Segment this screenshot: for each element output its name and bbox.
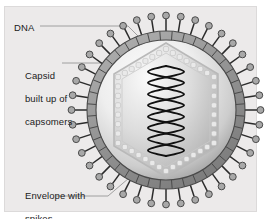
- spike-knob: [78, 64, 85, 71]
- spike-knob: [177, 200, 184, 207]
- spike-knob: [239, 51, 246, 58]
- virus-diagram-figure: DNA Capsid built up of capsomers Envelop…: [0, 0, 265, 219]
- spike-knob: [239, 162, 246, 169]
- capsomer: [143, 156, 148, 161]
- spike-knob: [247, 64, 254, 71]
- spike-stem: [152, 20, 154, 33]
- spike-stem: [236, 69, 248, 75]
- spike-knob: [133, 196, 140, 203]
- capsomer: [150, 54, 155, 59]
- spike-stem: [79, 82, 91, 86]
- spike-knob: [229, 173, 236, 180]
- capsomer: [170, 50, 175, 55]
- capsomer: [163, 168, 168, 173]
- spike-stem: [243, 96, 256, 98]
- spike-knob: [133, 17, 140, 24]
- capsomer: [211, 103, 216, 108]
- label-dna: DNA: [14, 22, 34, 34]
- capsomer: [184, 58, 189, 63]
- spike-stem: [243, 122, 256, 124]
- spike-knob: [218, 183, 225, 190]
- spike-knob: [206, 191, 213, 198]
- capsomer: [122, 70, 127, 75]
- capsomer: [184, 156, 189, 161]
- spike-stem: [152, 187, 154, 200]
- capsomer: [143, 58, 148, 63]
- spike-knob: [163, 12, 170, 19]
- capsomer: [198, 148, 203, 153]
- capsomer: [211, 84, 216, 89]
- capsomer: [115, 112, 120, 117]
- spike-stem: [229, 57, 240, 65]
- capsomer: [163, 46, 168, 51]
- spike-knob: [177, 13, 184, 20]
- spike-stem: [102, 46, 111, 55]
- spike-stem: [190, 23, 194, 35]
- label-capsid: Capsid built up of capsomers: [14, 58, 72, 139]
- spike-stem: [201, 180, 207, 192]
- capsomer: [115, 84, 120, 89]
- spike-stem: [85, 69, 97, 75]
- label-envelope-line1: Envelope with: [25, 190, 85, 201]
- capsomer: [115, 140, 120, 145]
- envelope-segment-divider: [160, 31, 161, 40]
- spike-knob: [96, 40, 103, 47]
- spike-stem: [85, 145, 97, 151]
- spike-stem: [138, 23, 142, 35]
- capsomer: [129, 148, 134, 153]
- spike-knob: [107, 30, 114, 37]
- envelope-segment-divider: [171, 31, 172, 40]
- capsomer: [191, 62, 196, 67]
- envelope-segment-divider: [236, 115, 245, 116]
- spike-knob: [192, 17, 199, 24]
- capsomer: [205, 144, 210, 149]
- spike-knob: [107, 183, 114, 190]
- spike-stem: [125, 29, 131, 41]
- spike-knob: [206, 22, 213, 29]
- capsomer: [150, 160, 155, 165]
- capsomer: [205, 70, 210, 75]
- spike-stem: [240, 82, 252, 86]
- spike-knob: [96, 173, 103, 180]
- envelope-segment-divider: [236, 104, 245, 105]
- label-capsid-line1: Capsid: [25, 70, 55, 81]
- capsomer: [177, 160, 182, 165]
- capsomer: [136, 152, 141, 157]
- capsomer: [115, 122, 120, 127]
- spike-knob: [86, 162, 93, 169]
- capsomer: [122, 144, 127, 149]
- capsomer: [115, 131, 120, 136]
- spike-stem: [212, 173, 220, 184]
- spike-stem: [138, 184, 142, 196]
- envelope-segment-divider: [87, 115, 96, 116]
- spike-stem: [79, 134, 91, 138]
- spike-stem: [221, 165, 230, 174]
- capsomer: [115, 74, 120, 79]
- capsomer: [115, 103, 120, 108]
- capsomer: [211, 112, 216, 117]
- label-envelope-line2: spikes: [25, 213, 53, 220]
- capsomer: [198, 66, 203, 71]
- spike-knob: [218, 30, 225, 37]
- spike-stem: [102, 165, 111, 174]
- spike-knob: [120, 191, 127, 198]
- spike-knob: [256, 121, 263, 128]
- spike-knob: [192, 196, 199, 203]
- capsomer: [170, 164, 175, 169]
- spike-knob: [229, 40, 236, 47]
- spike-knob: [163, 201, 170, 208]
- envelope-segment-divider: [160, 180, 161, 189]
- capsomer: [211, 122, 216, 127]
- spike-stem: [178, 187, 180, 200]
- label-capsid-line3: capsomers: [25, 116, 72, 127]
- spike-stem: [190, 184, 194, 196]
- spike-stem: [221, 46, 230, 55]
- spike-stem: [229, 156, 240, 164]
- capsomer: [115, 93, 120, 98]
- spike-knob: [256, 92, 263, 99]
- spike-knob: [247, 150, 254, 157]
- capsomer: [136, 62, 141, 67]
- spike-knob: [252, 136, 259, 143]
- spike-knob: [73, 136, 80, 143]
- spike-knob: [148, 200, 155, 207]
